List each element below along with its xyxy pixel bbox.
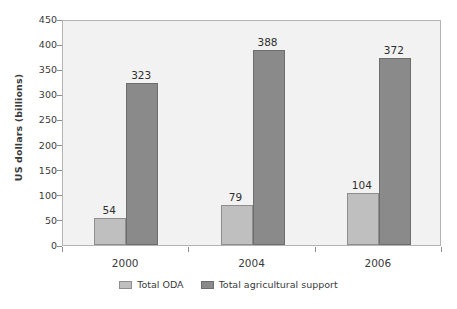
bar-value-label: 54 [102,204,115,216]
y-tick-label: 450 [0,15,57,25]
x-tick-label-2004: 2004 [238,257,265,269]
x-tick-mark [62,247,63,252]
y-tick-mark [57,20,62,21]
y-tick-mark [57,70,62,71]
bar-2000-series0[interactable] [94,218,126,245]
y-tick-label: 0 [0,241,57,251]
x-tick-label-2000: 2000 [112,257,139,269]
bar-2006-series0[interactable] [347,193,379,245]
y-tick-label: 100 [0,191,57,201]
y-tick-mark [57,170,62,171]
y-tick-label: 350 [0,65,57,75]
x-tick-mark [315,247,316,252]
bar-2000-series1[interactable] [126,83,158,245]
bar-value-label: 372 [384,44,404,56]
y-tick-mark [57,246,62,247]
y-tick-mark [57,120,62,121]
y-tick-label: 400 [0,40,57,50]
bar-2004-series1[interactable] [253,50,285,245]
bar-2006-series1[interactable] [379,58,411,245]
bar-2004-series0[interactable] [221,205,253,245]
legend-item-0[interactable]: Total ODA [119,279,183,290]
y-tick-label: 250 [0,116,57,126]
legend-swatch-icon [201,281,214,289]
y-tick-mark [57,95,62,96]
bar-value-label: 79 [229,191,242,203]
y-tick-mark [57,195,62,196]
y-tick-mark [57,45,62,46]
bar-value-label: 388 [257,36,277,48]
y-tick-mark [57,145,62,146]
y-tick-label: 150 [0,166,57,176]
y-tick-mark [57,220,62,221]
legend-item-1[interactable]: Total agricultural support [201,279,338,290]
y-tick-label: 200 [0,141,57,151]
bar-value-label: 104 [352,179,372,191]
x-tick-mark [441,247,442,252]
legend-label: Total agricultural support [219,279,338,290]
y-tick-label: 300 [0,91,57,101]
legend-swatch-icon [119,281,132,289]
x-tick-mark [188,247,189,252]
chart-legend: Total ODATotal agricultural support [0,279,457,290]
bar-chart: US dollars (billions) 050100150200250300… [0,0,457,309]
bar-value-label: 323 [131,69,151,81]
y-tick-label: 50 [0,216,57,226]
y-axis-ticks: 050100150200250300350400450 [0,0,57,309]
x-tick-label-2006: 2006 [364,257,391,269]
legend-label: Total ODA [137,279,183,290]
